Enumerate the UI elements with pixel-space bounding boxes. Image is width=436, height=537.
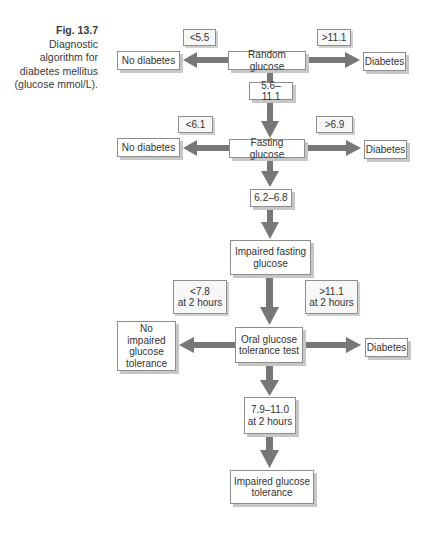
condition-label-7-9-to-11-0-2h: 7.9–11.0 at 2 hours [244,397,296,434]
condition-label-lt-5-5: <5.5 [183,29,216,46]
outcome-impaired-glucose-tolerance: Impaired glucose tolerance [230,470,314,504]
condition-label-gt-11-1-2h: >11.1 at 2 hours [305,280,358,314]
arrow-right-icon [306,52,360,68]
node-fasting-glucose: Fasting glucose [229,139,305,158]
arrow-down-icon [261,207,279,239]
arrow-left-icon [179,337,235,353]
condition-label-lt-6-1: <6.1 [178,116,213,133]
arrow-down-icon [260,363,279,396]
outcome-no-diabetes-random: No diabetes [117,51,180,70]
condition-label-gt-11-1: >11.1 [317,29,351,46]
outcome-diabetes-fasting: Diabetes [364,140,407,159]
outcome-diabetes-random: Diabetes [363,52,406,71]
outcome-no-diabetes-fasting: No diabetes [117,138,180,157]
arrow-right-icon [303,337,361,353]
arrow-down-icon [260,434,279,468]
node-impaired-fasting-glucose: Impaired fasting glucose [230,240,311,275]
condition-label-gt-6-9: >6.9 [316,116,353,133]
outcome-no-impaired-glucose-tolerance: No impaired glucose tolerance [117,321,176,371]
condition-label-lt-7-8-2h: <7.8 at 2 hours [173,280,227,314]
arrow-left-icon [183,52,228,68]
arrow-down-icon [261,100,279,138]
condition-label-6-2-to-6-8: 6.2–6.8 [250,189,292,207]
arrow-left-icon [183,140,229,156]
arrow-down-icon [261,158,279,187]
arrow-right-icon [305,140,361,156]
condition-label-5-6-to-11-1: 5.6–11.1 [249,82,293,100]
node-oral-glucose-tolerance-test: Oral glucose tolerance test [235,327,303,363]
outcome-diabetes-ogtt: Diabetes [365,338,408,357]
arrow-down-icon [260,275,279,325]
node-random-glucose: Random glucose [228,51,306,70]
flowchart-arrows [0,0,436,537]
